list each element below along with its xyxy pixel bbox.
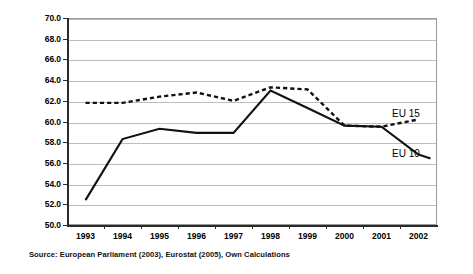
x-axis-tick-label: 1993 [67, 231, 104, 241]
y-axis-tick-label: 56.0 [25, 158, 61, 168]
source-note: Source: European Parliament (2003), Euro… [29, 250, 290, 259]
y-axis-tick-mark [63, 225, 68, 226]
x-axis-tick-label: 2002 [400, 231, 437, 241]
series-label-eu15: EU 15 [392, 108, 420, 119]
y-axis-tick-label: 62.0 [25, 96, 61, 106]
x-axis-tick-mark [326, 225, 327, 229]
x-axis-tick-label: 1994 [104, 231, 141, 241]
y-axis-tick-label: 60.0 [25, 117, 61, 127]
series-label-eu10: EU 10 [392, 148, 420, 159]
x-axis-tick-label: 1999 [289, 231, 326, 241]
x-axis-tick-mark [289, 225, 290, 229]
x-axis-tick-mark [178, 225, 179, 229]
x-axis-tick-mark [252, 225, 253, 229]
x-axis-tick-label: 1997 [215, 231, 252, 241]
x-axis-tick-label: 1995 [141, 231, 178, 241]
y-axis-tick-label: 52.0 [25, 199, 61, 209]
x-axis-tick-mark [400, 225, 401, 229]
y-axis-tick-label: 66.0 [25, 54, 61, 64]
y-axis-tick-label: 68.0 [25, 34, 61, 44]
y-axis-tick-label: 54.0 [25, 179, 61, 189]
series-line-eu15 [86, 87, 419, 126]
series-plot [67, 18, 437, 225]
x-axis-tick-mark [215, 225, 216, 229]
x-axis-tick-mark [363, 225, 364, 229]
x-axis-tick-label: 1998 [252, 231, 289, 241]
y-axis-tick-label: 50.0 [25, 220, 61, 230]
series-leader-eu10 [419, 155, 431, 159]
y-axis-tick-label: 64.0 [25, 75, 61, 85]
x-axis-tick-label: 1996 [178, 231, 215, 241]
x-axis-tick-label: 2001 [363, 231, 400, 241]
x-axis-tick-label: 2000 [326, 231, 363, 241]
x-axis-tick-mark [141, 225, 142, 229]
y-axis-tick-label: 70.0 [25, 13, 61, 23]
x-axis-tick-mark [104, 225, 105, 229]
series-line-eu10 [86, 90, 419, 200]
y-axis-tick-label: 58.0 [25, 137, 61, 147]
chart-figure: 50.052.054.056.058.060.062.064.066.068.0… [0, 0, 473, 274]
